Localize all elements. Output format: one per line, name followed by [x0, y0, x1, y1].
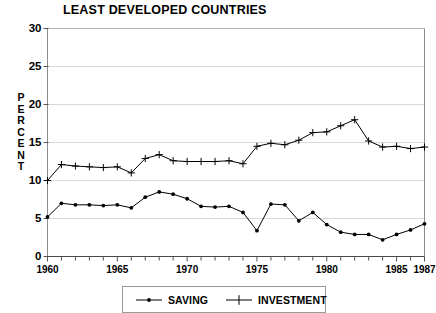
x-tick-label: 1987: [405, 264, 436, 275]
legend-item-saving: SAVING: [135, 291, 208, 308]
x-axis-ticks: [48, 257, 425, 262]
y-tick-label: 10: [18, 174, 42, 186]
y-tick-label: 30: [18, 22, 42, 34]
legend-item-investment: INVESTMENT: [225, 291, 327, 308]
y-tick-label: 15: [18, 136, 42, 148]
legend-label-saving: SAVING: [168, 294, 208, 306]
y-tick-label: 0: [18, 250, 42, 262]
chart-container: LEAST DEVELOPED COUNTRIES P E R C E N T …: [0, 0, 436, 313]
x-tick-label: 1975: [237, 264, 277, 275]
investment-line-marker-icon: [225, 294, 253, 306]
legend-label-investment: INVESTMENT: [258, 294, 327, 306]
y-tick-label: 25: [18, 60, 42, 72]
x-tick-label: 1965: [97, 264, 137, 275]
saving-line-marker-icon: [135, 294, 163, 306]
x-tick-label: 1980: [307, 264, 347, 275]
x-tick-label: 1960: [28, 264, 68, 275]
y-tick-label: 20: [18, 98, 42, 110]
x-tick-label: 1970: [167, 264, 207, 275]
y-tick-label: 5: [18, 212, 42, 224]
chart-legend: SAVING INVESTMENT: [122, 286, 326, 313]
data-series: [44, 116, 428, 242]
gridlines: [48, 29, 425, 219]
